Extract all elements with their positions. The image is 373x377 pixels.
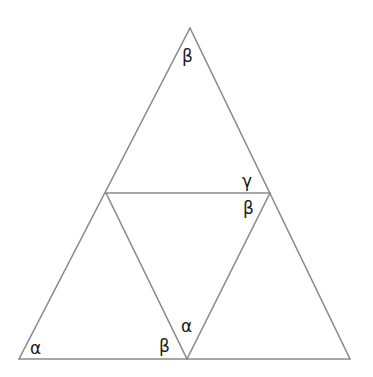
label-mid-bottom-alpha: α xyxy=(181,316,192,336)
label-bottom-left-alpha: α xyxy=(30,338,41,358)
label-mid-right-gamma: γ xyxy=(242,171,252,191)
label-mid-bottom-beta: β xyxy=(159,336,170,356)
label-mid-right-beta: β xyxy=(243,198,254,218)
triangle-diagram: β γ β α β α xyxy=(0,0,373,377)
label-apex-beta: β xyxy=(182,46,193,66)
midline-right-to-bottom xyxy=(187,193,270,359)
midline-left-to-bottom xyxy=(106,193,187,359)
